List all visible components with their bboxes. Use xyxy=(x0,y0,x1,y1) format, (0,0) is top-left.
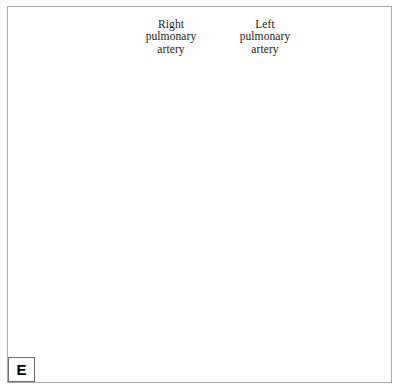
panel-letter-badge: E xyxy=(8,357,35,382)
figure-frame xyxy=(7,6,392,383)
label-right-pulmonary-artery: Right pulmonary artery xyxy=(134,18,208,55)
label-left-pulmonary-artery: Left pulmonary artery xyxy=(228,18,302,55)
figure-root: Right pulmonary artery Left pulmonary ar… xyxy=(0,0,411,391)
